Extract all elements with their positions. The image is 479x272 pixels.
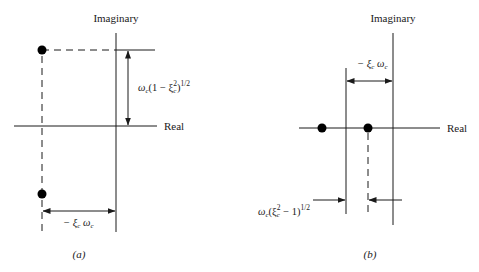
right-real-pole	[364, 124, 373, 133]
panel-b: Imaginary Real − ξc ωc ωc(ξc2 − 1)1/2 (b…	[258, 12, 467, 261]
real-axis-label-b: Real	[447, 122, 467, 134]
spread-label: ωc(ξc2 − 1)1/2	[258, 203, 310, 219]
lower-complex-pole	[38, 190, 47, 199]
imaginary-axis-label-b: Imaginary	[370, 12, 416, 24]
center-offset-label: − ξc ωc	[357, 58, 388, 71]
pole-location-figure: Imaginary Real ωc(1 − ξc2)1/2 − ξc ωc (a…	[0, 0, 479, 272]
upper-complex-pole	[38, 46, 47, 55]
left-real-pole	[318, 124, 327, 133]
real-axis-label-a: Real	[164, 120, 184, 132]
panel-a-caption: (a)	[73, 248, 86, 261]
imag-part-label: ωc(1 − ξc2)1/2	[138, 79, 190, 95]
real-part-label-a: − ξc ωc	[63, 217, 94, 230]
imaginary-axis-label-a: Imaginary	[93, 12, 139, 24]
panel-a: Imaginary Real ωc(1 − ξc2)1/2 − ξc ωc (a…	[14, 12, 190, 261]
panel-b-caption: (b)	[364, 248, 377, 261]
